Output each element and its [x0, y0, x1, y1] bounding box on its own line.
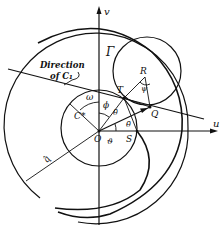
theta-arc	[115, 124, 116, 131]
hodograph-diagram: v u Direction of C₁ Γ ω R ψ T ϕ Q θ̄ θ̄ …	[0, 0, 224, 227]
v-axis-label: v	[104, 6, 110, 17]
point-S	[136, 130, 139, 133]
direction-label-line1: Direction	[39, 60, 85, 70]
T-label: T	[117, 85, 124, 95]
theta-bar-label-2: θ̄	[126, 120, 131, 129]
u-axis-arrowhead	[210, 129, 218, 134]
direction-label-line2: of C₁	[50, 71, 73, 81]
psi-label: ψ	[141, 84, 148, 93]
arrow-OQ	[140, 108, 148, 113]
v-axis-arrowhead	[97, 6, 102, 14]
vartheta-label: ϑ	[107, 137, 113, 146]
R-label: R	[139, 66, 147, 76]
C-star-label: C*	[74, 111, 86, 121]
gamma-label: Γ	[105, 45, 115, 59]
theta-bar-label: θ̄	[113, 108, 118, 117]
point-T	[123, 97, 126, 100]
inner-arc-through-S	[55, 131, 149, 210]
phi-arc	[99, 113, 109, 117]
point-O	[98, 130, 101, 133]
phi-label: ϕ	[103, 100, 109, 110]
S-label: S	[126, 134, 132, 144]
q-hat-label: q̂	[41, 154, 53, 165]
omega-label: ω	[86, 92, 94, 102]
O-label: O	[94, 134, 102, 144]
omega-arc	[80, 102, 99, 110]
outer-circle	[4, 33, 188, 198]
u-axis-label: u	[213, 118, 219, 129]
Q-label: Q	[151, 109, 159, 119]
